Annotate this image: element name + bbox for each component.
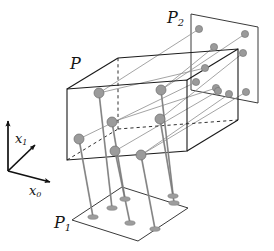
figure-canvas: P P1 P2 x0 x1: [0, 0, 274, 251]
projected-points-p1: [88, 194, 179, 232]
axis-x1-arrow: [8, 145, 35, 171]
data-points-box: [74, 85, 166, 160]
label-plane-p2: P2: [167, 10, 184, 28]
projection-diagram: [0, 0, 274, 251]
box-p: [67, 49, 238, 160]
label-axis-x0: x0: [29, 184, 41, 199]
label-axis-x1: x1: [15, 132, 27, 147]
label-box-p: P: [70, 56, 81, 72]
axis-x0-arrow: [8, 171, 50, 182]
label-plane-p1: P1: [54, 215, 71, 233]
drop-stems-p1: [79, 90, 174, 229]
